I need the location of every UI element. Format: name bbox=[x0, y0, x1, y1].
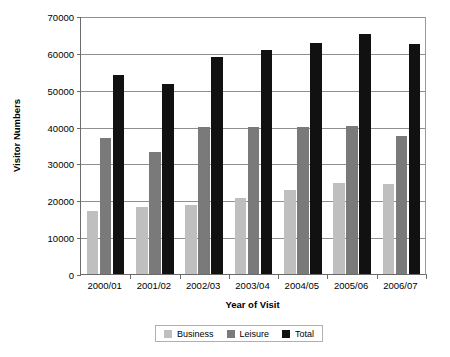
x-axis-tick-mark bbox=[130, 274, 131, 279]
legend-label: Total bbox=[295, 329, 314, 339]
y-axis-tick-mark bbox=[77, 275, 81, 276]
bar-total bbox=[261, 50, 273, 274]
bar-business bbox=[87, 211, 99, 274]
chart-legend: BusinessLeisureTotal bbox=[155, 325, 323, 342]
bar-business bbox=[333, 183, 345, 274]
bar-total bbox=[211, 57, 223, 274]
x-axis-tick-mark bbox=[278, 274, 279, 279]
x-axis-tick-mark bbox=[426, 274, 427, 279]
bar-business bbox=[383, 184, 395, 274]
bar-group bbox=[377, 17, 426, 274]
y-axis-tick-label: 10000 bbox=[48, 233, 74, 244]
y-axis-title: Visitor Numbers bbox=[11, 76, 22, 196]
bar-leisure bbox=[297, 127, 309, 274]
bar-total bbox=[113, 75, 125, 274]
bar-business bbox=[136, 207, 148, 274]
x-axis-category-label: 2001/02 bbox=[137, 280, 171, 291]
bar-group bbox=[81, 17, 130, 274]
bar-total bbox=[310, 43, 322, 274]
x-axis-category-label: 2005/06 bbox=[334, 280, 368, 291]
bar-leisure bbox=[346, 126, 358, 274]
bar-leisure bbox=[248, 127, 260, 274]
plot-area: 010000200003000040000500006000070000 bbox=[80, 17, 425, 275]
legend-item-leisure: Leisure bbox=[227, 329, 270, 339]
bar-business bbox=[284, 190, 296, 274]
bar-business bbox=[185, 205, 197, 274]
bar-business bbox=[235, 198, 247, 274]
bar-group bbox=[278, 17, 327, 274]
x-axis-tick-mark bbox=[180, 274, 181, 279]
x-axis-category-label: 2003/04 bbox=[235, 280, 269, 291]
legend-item-business: Business bbox=[164, 329, 214, 339]
legend-item-total: Total bbox=[282, 329, 314, 339]
x-axis-category-label: 2002/03 bbox=[186, 280, 220, 291]
x-axis-category-label: 2004/05 bbox=[285, 280, 319, 291]
legend-label: Leisure bbox=[240, 329, 270, 339]
x-axis-tick-mark bbox=[377, 274, 378, 279]
legend-swatch-business bbox=[164, 330, 172, 338]
bar-group bbox=[180, 17, 229, 274]
bar-leisure bbox=[100, 138, 112, 274]
x-axis-title: Year of Visit bbox=[80, 299, 425, 310]
y-axis-tick-label: 20000 bbox=[48, 196, 74, 207]
bar-chart: Visitor Numbers 010000200003000040000500… bbox=[0, 0, 450, 357]
y-axis-tick-label: 30000 bbox=[48, 159, 74, 170]
x-axis-tick-mark bbox=[327, 274, 328, 279]
bar-leisure bbox=[396, 136, 408, 274]
bar-group bbox=[229, 17, 278, 274]
bar-group bbox=[327, 17, 376, 274]
y-axis-tick-label: 0 bbox=[69, 270, 74, 281]
x-axis-category-label: 2006/07 bbox=[383, 280, 417, 291]
bar-total bbox=[409, 44, 421, 274]
y-axis-tick-label: 50000 bbox=[48, 85, 74, 96]
x-axis-category-label: 2000/01 bbox=[87, 280, 121, 291]
legend-swatch-leisure bbox=[227, 330, 235, 338]
plot-frame-right-edge bbox=[425, 17, 426, 275]
bar-leisure bbox=[198, 127, 210, 274]
y-axis-tick-label: 40000 bbox=[48, 122, 74, 133]
bars-layer bbox=[81, 17, 425, 274]
bar-leisure bbox=[149, 152, 161, 274]
legend-swatch-total bbox=[282, 330, 290, 338]
bar-group bbox=[130, 17, 179, 274]
x-axis-tick-mark bbox=[229, 274, 230, 279]
y-axis-tick-label: 60000 bbox=[48, 48, 74, 59]
y-axis-tick-label: 70000 bbox=[48, 12, 74, 23]
legend-label: Business bbox=[177, 329, 214, 339]
bar-total bbox=[162, 84, 174, 274]
bar-total bbox=[359, 34, 371, 274]
